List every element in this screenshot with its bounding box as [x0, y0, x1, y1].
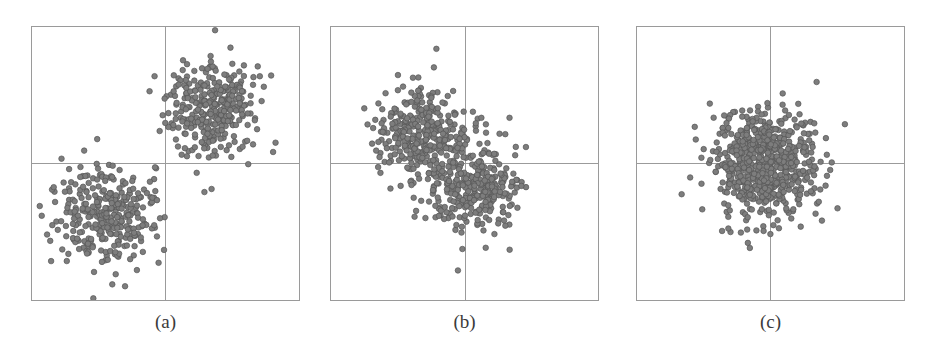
scatter-point	[86, 214, 92, 220]
scatter-point	[424, 147, 430, 153]
scatter-point	[783, 169, 789, 175]
scatter-point	[780, 182, 786, 188]
scatter-point	[233, 122, 239, 128]
scatter-point	[786, 112, 792, 118]
scatter-point	[818, 159, 824, 165]
scatter-point	[78, 164, 84, 170]
scatter-point	[727, 181, 733, 187]
scatter-point	[171, 89, 177, 95]
scatter-point	[84, 251, 90, 257]
scatter-point	[123, 180, 129, 186]
scatter-point	[725, 203, 731, 209]
scatter-point	[362, 106, 368, 112]
scatter-point	[229, 82, 235, 88]
scatter-point	[115, 201, 121, 207]
scatter-point	[111, 243, 117, 249]
scatter-point	[255, 64, 261, 70]
scatter-point	[208, 53, 214, 59]
scatter-point	[413, 208, 419, 214]
scatter-point	[118, 234, 124, 240]
scatter-point	[173, 137, 179, 143]
scatter-point	[138, 235, 144, 241]
scatter-point	[180, 67, 186, 73]
scatter-point	[225, 118, 231, 124]
scatter-point	[731, 190, 737, 196]
scatter-point	[90, 185, 96, 191]
scatter-point	[425, 176, 431, 182]
scatter-point	[462, 213, 468, 219]
scatter-point	[482, 178, 488, 184]
scatter-plot-b	[331, 27, 598, 300]
scatter-point	[744, 132, 750, 138]
scatter-point	[726, 226, 732, 232]
scatter-point	[66, 166, 72, 172]
scatter-point	[208, 59, 214, 65]
scatter-point	[493, 158, 499, 164]
scatter-point	[370, 125, 376, 131]
scatter-point	[513, 144, 519, 150]
scatter-point	[196, 153, 202, 159]
scatter-point	[458, 171, 464, 177]
scatter-point	[460, 246, 466, 252]
scatter-point	[760, 170, 766, 176]
scatter-point	[396, 140, 402, 146]
scatter-point	[476, 159, 482, 165]
scatter-point	[711, 115, 717, 121]
scatter-point	[166, 110, 172, 116]
scatter-point	[429, 95, 435, 101]
scatter-point	[160, 112, 166, 118]
scatter-point	[109, 282, 115, 288]
scatter-point	[203, 102, 209, 108]
scatter-point	[474, 172, 480, 178]
scatter-point	[399, 153, 405, 159]
scatter-point	[62, 189, 68, 195]
scatter-point	[699, 181, 705, 187]
scatter-point	[463, 176, 469, 182]
scatter-point	[813, 211, 819, 217]
scatter-point	[798, 224, 804, 230]
scatter-point	[140, 223, 146, 229]
scatter-point	[795, 180, 801, 186]
scatter-point	[713, 169, 719, 175]
scatter-point	[745, 215, 751, 221]
scatter-point	[176, 125, 182, 131]
scatter-point	[701, 146, 707, 152]
scatter-point	[773, 127, 779, 133]
scatter-point	[440, 131, 446, 137]
scatter-point	[823, 135, 829, 141]
scatter-point	[232, 139, 238, 145]
scatter-point	[512, 152, 518, 158]
scatter-point	[745, 240, 751, 246]
scatter-point	[507, 203, 513, 209]
scatter-point	[390, 121, 396, 127]
scatter-point	[72, 209, 78, 215]
scatter-point	[811, 121, 817, 127]
scatter-point	[125, 227, 131, 233]
scatter-point	[95, 166, 101, 172]
scatter-point	[431, 167, 437, 173]
scatter-point	[107, 231, 113, 237]
scatter-point	[195, 107, 201, 113]
scatter-point	[435, 120, 441, 126]
scatter-point	[86, 194, 92, 200]
scatter-point	[739, 114, 745, 120]
scatter-point	[71, 228, 77, 234]
scatter-point	[737, 193, 743, 199]
scatter-point	[483, 199, 489, 205]
scatter-point	[257, 73, 263, 79]
scatter-point	[489, 184, 495, 190]
scatter-point	[131, 230, 137, 236]
scatter-point	[448, 134, 454, 140]
scatter-point	[228, 107, 234, 113]
scatter-point	[202, 83, 208, 89]
scatter-point	[764, 156, 770, 162]
scatter-point	[489, 176, 495, 182]
scatter-point	[109, 219, 115, 225]
scatter-point	[472, 183, 478, 189]
scatter-point	[395, 87, 401, 93]
scatter-point	[461, 109, 467, 115]
scatter-point	[96, 184, 102, 190]
scatter-point	[94, 136, 100, 142]
scatter-point	[114, 214, 120, 220]
scatter-point	[747, 108, 753, 114]
